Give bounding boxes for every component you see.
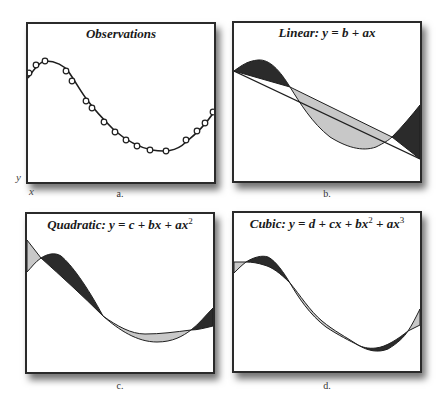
- panel-title: Quadratic: y = c + bx + ax2: [27, 216, 213, 233]
- dark-region: [358, 331, 408, 351]
- light-region: [103, 316, 191, 342]
- light-region: [408, 309, 420, 331]
- dark-region: [246, 256, 290, 283]
- title-text: Quadratic: y = c + bx + ax: [47, 217, 188, 232]
- panel-observations: Observations: [26, 22, 216, 184]
- caption-d: d.: [312, 380, 342, 391]
- observation-points: [28, 58, 214, 154]
- title-superscript: 2: [188, 216, 193, 226]
- title-text: + ax: [373, 216, 400, 231]
- dark-region: [41, 254, 103, 316]
- panel-title: Cubic: y = d + cx + bx2 + ax3: [234, 215, 420, 232]
- panel-title: Linear: y = b + ax: [234, 25, 420, 41]
- light-region: [290, 87, 392, 149]
- light-region: [234, 262, 246, 273]
- title-superscript: 3: [400, 215, 405, 225]
- observations-plot: [28, 24, 214, 182]
- linear-fit-line: [234, 71, 420, 159]
- quadratic-plot: [27, 214, 213, 372]
- caption-a: a.: [105, 188, 135, 199]
- dark-region: [234, 60, 290, 87]
- light-region: [290, 283, 358, 345]
- cubic-plot: [234, 213, 420, 371]
- caption-c: c.: [105, 380, 135, 391]
- dark-region: [392, 105, 420, 159]
- panel-title: Observations: [28, 26, 214, 42]
- panel-cubic: Cubic: y = d + cx + bx2 + ax3: [232, 211, 422, 373]
- light-region: [27, 240, 41, 272]
- y-axis-label: y: [16, 171, 21, 183]
- caption-b: b.: [312, 188, 342, 199]
- dark-region: [191, 308, 213, 330]
- panel-linear: Linear: y = b + ax: [232, 21, 422, 183]
- x-axis-label: x: [29, 185, 34, 197]
- linear-plot: [234, 23, 420, 181]
- panel-quadratic: Quadratic: y = c + bx + ax2: [25, 212, 215, 374]
- title-text: Cubic: y = d + cx + bx: [250, 216, 369, 231]
